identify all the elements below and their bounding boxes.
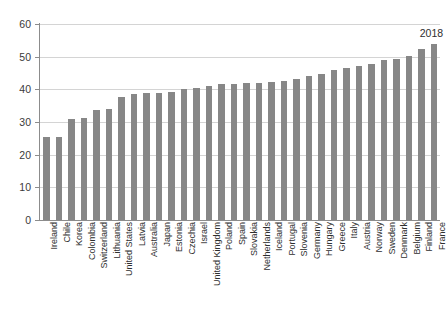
bar	[56, 137, 63, 220]
x-tick-label: United States	[125, 222, 134, 276]
y-tick-mark	[35, 89, 39, 90]
y-tick-label: 30	[0, 117, 31, 127]
bar	[356, 66, 363, 221]
bar	[243, 83, 250, 220]
bar	[181, 89, 188, 220]
y-tick-mark	[35, 187, 39, 188]
x-tick-label: Spain	[238, 222, 247, 245]
bar	[168, 92, 175, 220]
bar	[43, 137, 50, 220]
x-tick-label: Australia	[150, 222, 159, 257]
annotation-year-label: 2018	[420, 27, 443, 39]
x-tick-label: Italy	[350, 222, 359, 239]
x-tick-label: Colombia	[88, 222, 97, 260]
x-tick-label: Switzerland	[100, 222, 109, 269]
bar	[368, 64, 375, 220]
bar	[206, 86, 213, 220]
x-tick-label: Greece	[338, 222, 347, 252]
bar	[431, 44, 438, 220]
y-tick-mark	[35, 24, 39, 25]
x-tick-label: Finland	[425, 222, 434, 252]
x-tick-label: Belgium	[413, 222, 422, 255]
bar	[81, 118, 88, 220]
x-tick-label: Sweden	[388, 222, 397, 255]
x-tick-label: Lithuania	[113, 222, 122, 259]
x-tick-label: Korea	[75, 222, 84, 246]
x-tick-label: Ireland	[50, 222, 59, 250]
y-tick-mark	[35, 57, 39, 58]
x-tick-label: Austria	[363, 222, 372, 250]
x-tick-label: Japan	[163, 222, 172, 247]
x-tick-label: Slovakia	[250, 222, 259, 256]
x-tick-label: Israel	[200, 222, 209, 244]
x-tick-label: Netherlands	[263, 222, 272, 271]
bar	[156, 93, 163, 220]
bar-series	[40, 24, 440, 220]
x-tick-label: Denmark	[400, 222, 409, 259]
y-tick-label: 10	[0, 182, 31, 192]
bar	[106, 109, 113, 220]
x-tick-label: Chile	[63, 222, 72, 243]
bar	[193, 88, 200, 220]
y-tick-mark	[35, 122, 39, 123]
x-tick-label: Poland	[225, 222, 234, 250]
x-tick-label: Norway	[375, 222, 384, 253]
bar	[306, 76, 313, 220]
bar	[343, 68, 350, 220]
y-tick-label: 50	[0, 52, 31, 62]
bar	[218, 84, 225, 220]
bar	[68, 119, 75, 220]
bar	[293, 79, 300, 220]
bar	[231, 84, 238, 220]
x-tick-label: Estonia	[175, 222, 184, 252]
y-tick-mark	[35, 155, 39, 156]
bar	[118, 97, 125, 220]
bar	[331, 70, 338, 220]
bar	[418, 49, 425, 220]
y-tick-label: 0	[0, 215, 31, 225]
bar	[393, 59, 400, 220]
bar-chart-figure: 0102030405060 IrelandChileKoreaColombiaS…	[0, 0, 446, 323]
bar	[406, 56, 413, 220]
x-tick-label: Iceland	[275, 222, 284, 251]
x-axis-labels: IrelandChileKoreaColombiaSwitzerlandLith…	[40, 222, 440, 322]
x-tick-label: Portugal	[288, 222, 297, 256]
y-tick-mark	[35, 220, 39, 221]
x-tick-label: United Kingdom	[213, 222, 222, 286]
x-tick-label: Hungary	[325, 222, 334, 256]
y-tick-label: 60	[0, 19, 31, 29]
bar	[281, 81, 288, 220]
plot-area	[40, 24, 440, 220]
x-tick-label: France	[438, 222, 446, 250]
x-tick-label: Germany	[313, 222, 322, 259]
y-tick-label: 20	[0, 150, 31, 160]
x-tick-label: Czechia	[188, 222, 197, 255]
bar	[381, 60, 388, 220]
bar	[256, 83, 263, 220]
bar	[143, 93, 150, 220]
y-tick-label: 40	[0, 84, 31, 94]
x-tick-label: Slovenia	[300, 222, 309, 257]
bar	[131, 94, 138, 220]
bar	[318, 74, 325, 220]
bar	[268, 82, 275, 220]
x-tick-label: Latvia	[138, 222, 147, 246]
bar	[93, 110, 100, 220]
